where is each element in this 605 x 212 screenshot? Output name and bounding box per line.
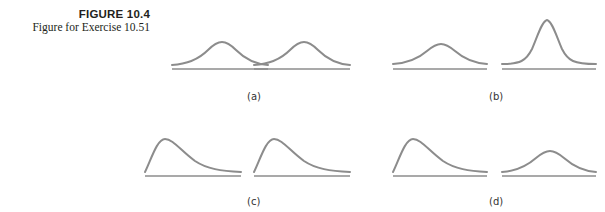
panel-c-right-plot bbox=[254, 135, 350, 177]
panel-a-label: (a) bbox=[247, 91, 261, 102]
figure-title: Figure for Exercise 10.51 bbox=[0, 21, 150, 33]
panel-c-label: (c) bbox=[247, 196, 260, 207]
panel-b-label: (b) bbox=[489, 91, 503, 102]
panel-a-right-plot bbox=[254, 36, 350, 70]
right-skewed-curve bbox=[254, 139, 350, 172]
panel-d-left-plot bbox=[393, 135, 487, 177]
figure-caption: FIGURE 10.4 Figure for Exercise 10.51 bbox=[0, 8, 150, 33]
panel-b-left-plot bbox=[393, 36, 487, 70]
right-skewed-curve bbox=[393, 139, 487, 172]
figure-number: FIGURE 10.4 bbox=[0, 8, 150, 20]
panel-c-left-plot bbox=[145, 135, 241, 177]
panel-d-label: (d) bbox=[489, 196, 503, 207]
wide-symmetric-curve bbox=[393, 44, 487, 64]
panel-b-right-plot bbox=[502, 17, 596, 70]
narrow-symmetric-curve bbox=[502, 20, 596, 64]
right-skewed-curve bbox=[145, 139, 241, 172]
symmetric-curve bbox=[254, 42, 350, 65]
panel-d-right-plot bbox=[502, 135, 596, 177]
symmetric-curve bbox=[502, 151, 596, 172]
